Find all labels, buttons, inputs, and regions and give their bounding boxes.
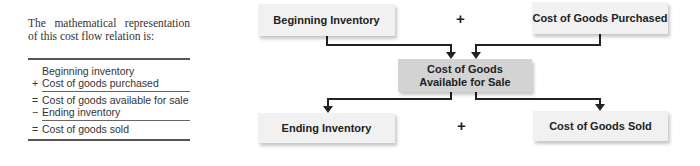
cost-of-goods-purchased-box: Cost of Goods Purchased bbox=[532, 2, 668, 34]
ending-inventory-box: Ending Inventory bbox=[258, 113, 395, 143]
cost-of-goods-sold-box: Cost of Goods Sold bbox=[533, 111, 668, 141]
plus-operator: + bbox=[457, 117, 466, 134]
plus-operator: + bbox=[456, 10, 465, 27]
beginning-inventory-box: Beginning Inventory bbox=[258, 4, 395, 36]
cost-of-goods-available-box: Cost of Goods Available for Sale bbox=[398, 59, 532, 92]
